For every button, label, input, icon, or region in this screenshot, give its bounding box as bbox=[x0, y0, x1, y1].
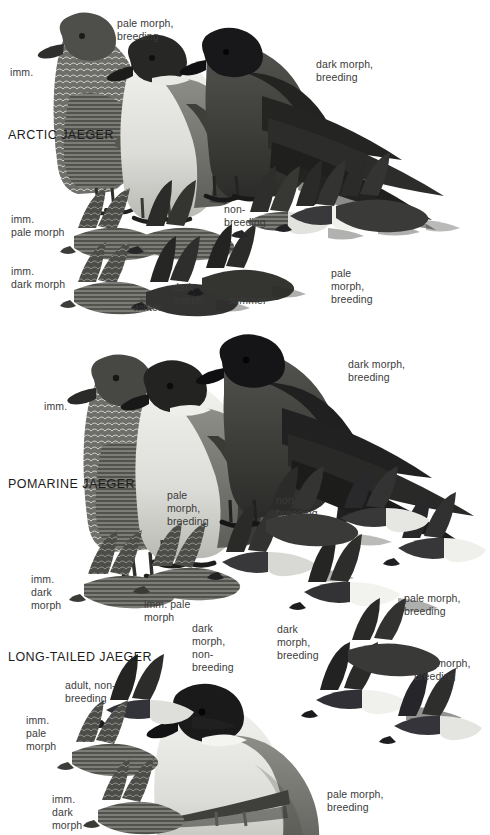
label-long-tailed-adult-non-breeding: adult, non- breeding bbox=[65, 679, 116, 705]
label-pomarine-pale-morph-breeding-flight: pale morph, breeding bbox=[404, 592, 461, 618]
label-arctic-imm-dark-morph: imm. dark morph bbox=[11, 265, 65, 291]
bird-artwork-plate bbox=[0, 0, 490, 835]
label-long-tailed-imm-pale-morph: imm. pale morph bbox=[26, 714, 56, 753]
label-long-tailed-imm-dark-morph: imm. dark morph bbox=[52, 793, 82, 832]
label-pomarine-dark-morph-breeding-flight: dark morph, breeding bbox=[277, 623, 319, 662]
label-arctic-pale-morph-breeding-flight: pale morph, breeding bbox=[331, 267, 373, 306]
label-arctic-pale-morph-breeding: pale morph, breeding bbox=[117, 17, 174, 43]
label-long-tailed-pale-morph-breeding-bottom: pale morph, breeding bbox=[327, 788, 384, 814]
label-arctic-winter: winter bbox=[133, 301, 162, 314]
label-pomarine-dark-morph-non-breeding: dark morph, non- breeding bbox=[192, 622, 234, 674]
species-heading-long-tailed-jaeger: LONG-TAILED JAEGER bbox=[8, 650, 152, 664]
species-heading-pomarine-jaeger: POMARINE JAEGER bbox=[8, 477, 135, 491]
illustration-plate: ARCTIC JAEGER imm. pale morph, breeding … bbox=[0, 0, 490, 835]
species-heading-arctic-jaeger: ARCTIC JAEGER bbox=[8, 128, 114, 142]
label-pomarine-imm: imm. bbox=[44, 400, 67, 413]
label-arctic-imm: imm. bbox=[10, 66, 33, 79]
label-pomarine-imm-pale-morph: imm. pale morph bbox=[144, 598, 190, 624]
label-arctic-dark-morph: dark morph bbox=[173, 281, 203, 307]
label-pomarine-non-breeding: non- breeding bbox=[276, 494, 318, 520]
label-arctic-imm-pale-morph: imm. pale morph bbox=[11, 213, 65, 239]
label-long-tailed-pale-morph-breeding-right: pale morph, breeding bbox=[414, 657, 471, 683]
label-arctic-dark-morph-breeding: dark morph, breeding bbox=[316, 58, 373, 84]
label-arctic-non-breeding: non- breeding bbox=[224, 203, 266, 229]
label-pomarine-pale-morph-breeding: pale morph, breeding bbox=[167, 489, 209, 528]
label-pomarine-imm-dark-morph: imm. dark morph bbox=[31, 573, 61, 612]
label-arctic-summer: summer bbox=[228, 294, 267, 307]
label-pomarine-dark-morph-breeding: dark morph, breeding bbox=[348, 358, 405, 384]
